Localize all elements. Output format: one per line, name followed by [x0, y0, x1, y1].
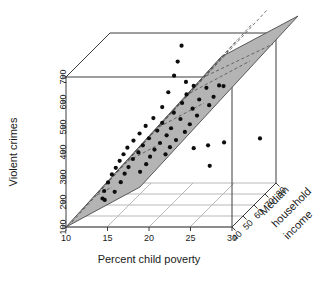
- data-point: [137, 131, 141, 135]
- y-tick-label: 200: [58, 194, 68, 209]
- data-point: [178, 117, 182, 121]
- data-point: [258, 136, 262, 140]
- data-point: [217, 83, 221, 87]
- data-point: [163, 152, 167, 156]
- data-point: [208, 164, 212, 168]
- x-tick-label: 25: [185, 233, 195, 243]
- data-point: [119, 180, 123, 184]
- chart-3d-scatter: 100200300400500600700 Violent crimes 101…: [0, 0, 325, 285]
- x-tick-label: 20: [144, 233, 154, 243]
- data-point: [207, 103, 211, 107]
- data-point: [183, 130, 187, 134]
- data-point: [114, 166, 118, 170]
- data-point: [148, 155, 152, 159]
- data-point: [172, 74, 176, 78]
- data-point: [123, 172, 127, 176]
- data-point: [144, 162, 148, 166]
- data-point: [169, 126, 173, 130]
- data-point: [158, 141, 162, 145]
- data-point: [147, 136, 151, 140]
- data-point: [206, 143, 210, 147]
- y-tick-label: 500: [58, 119, 68, 134]
- x-axis: 1015202530 Percent child poverty: [61, 227, 237, 265]
- data-point: [136, 150, 140, 154]
- data-point: [151, 116, 155, 120]
- data-point: [102, 189, 106, 193]
- data-point: [113, 190, 117, 194]
- data-point: [131, 157, 135, 161]
- data-point: [160, 121, 164, 125]
- data-point: [172, 111, 176, 115]
- z-tick-label: 50: [241, 218, 255, 232]
- data-point: [160, 105, 164, 109]
- data-point: [197, 97, 201, 101]
- data-point: [126, 165, 130, 169]
- y-tick-label: 400: [58, 144, 68, 159]
- data-point: [176, 60, 180, 64]
- data-point: [179, 44, 183, 48]
- data-point: [141, 143, 145, 147]
- data-point: [184, 92, 188, 96]
- x-axis-title: Percent child poverty: [98, 253, 201, 265]
- data-point: [192, 146, 196, 150]
- y-axis-title: Violent crimes: [7, 117, 19, 186]
- data-point: [144, 124, 148, 128]
- data-point: [180, 101, 184, 105]
- data-point: [190, 107, 194, 111]
- y-tick-label: 700: [58, 69, 68, 84]
- data-point: [106, 180, 110, 184]
- x-tick-label: 15: [102, 233, 112, 243]
- y-tick-label: 600: [58, 94, 68, 109]
- data-point: [165, 133, 169, 137]
- data-point: [152, 147, 156, 151]
- z-axis: 4050607080 Median household income: [230, 183, 315, 243]
- data-point: [110, 172, 114, 176]
- y-axis: 100200300400500600700 Violent crimes: [7, 69, 68, 234]
- y-tick-label: 300: [58, 169, 68, 184]
- data-point: [155, 129, 159, 133]
- data-point: [184, 80, 188, 84]
- data-point: [211, 95, 215, 99]
- data-point: [103, 198, 107, 202]
- data-point: [168, 145, 172, 149]
- data-point: [121, 152, 125, 156]
- data-point: [222, 140, 226, 144]
- data-point: [131, 139, 135, 143]
- x-tick-label: 10: [61, 233, 71, 243]
- data-point: [188, 122, 192, 126]
- data-point: [174, 138, 178, 142]
- data-point: [221, 84, 225, 88]
- data-point: [166, 90, 170, 94]
- data-point: [118, 159, 122, 163]
- data-point: [138, 170, 142, 174]
- data-point: [204, 86, 208, 90]
- data-point: [192, 84, 196, 88]
- data-point: [125, 146, 129, 150]
- data-point: [195, 113, 199, 117]
